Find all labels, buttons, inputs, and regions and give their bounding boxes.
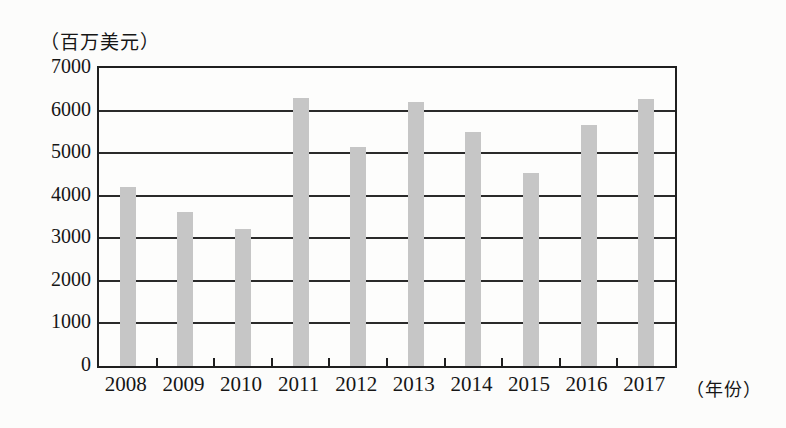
x-tick-label: 2009 — [162, 374, 204, 395]
bar-2014 — [465, 132, 481, 366]
y-tick-label: 5000 — [51, 141, 91, 161]
y-tick-label: 7000 — [51, 56, 91, 76]
bar-2012 — [350, 147, 366, 366]
bar-2013 — [408, 102, 424, 366]
x-tick-label: 2011 — [278, 374, 319, 395]
x-axis-tick-mark — [559, 358, 561, 366]
x-tick-label: 2016 — [566, 374, 608, 395]
bar-2017 — [638, 99, 654, 366]
gridline-6000 — [99, 110, 675, 112]
y-tick-label: 3000 — [51, 226, 91, 246]
x-axis-tick-mark — [386, 358, 388, 366]
y-tick-label: 6000 — [51, 99, 91, 119]
bar-2016 — [581, 125, 597, 366]
x-axis-tick-labels: 2008200920102011201220132014201520162017 — [97, 374, 673, 400]
y-tick-label: 2000 — [51, 269, 91, 289]
x-axis-unit-label: （年份） — [686, 375, 762, 401]
x-tick-label: 2015 — [508, 374, 550, 395]
bar-2008 — [120, 187, 136, 366]
x-axis-tick-mark — [616, 358, 618, 366]
x-tick-label: 2008 — [105, 374, 147, 395]
bar-chart-figure: （百万美元） 01000200030004000500060007000 200… — [0, 0, 786, 428]
bar-2011 — [293, 98, 309, 366]
y-tick-label: 1000 — [51, 311, 91, 331]
plot-area — [97, 66, 677, 368]
x-tick-label: 2010 — [220, 374, 262, 395]
y-tick-label: 0 — [81, 354, 91, 374]
bar-2009 — [177, 212, 193, 366]
x-tick-label: 2012 — [335, 374, 377, 395]
x-tick-label: 2017 — [623, 374, 665, 395]
y-axis-tick-labels: 01000200030004000500060007000 — [0, 66, 91, 364]
bar-2010 — [235, 229, 251, 367]
bar-2015 — [523, 173, 539, 366]
y-tick-label: 4000 — [51, 184, 91, 204]
x-tick-label: 2014 — [450, 374, 492, 395]
x-axis-tick-mark — [213, 358, 215, 366]
y-axis-unit-label: （百万美元） — [40, 27, 160, 54]
x-axis-tick-mark — [444, 358, 446, 366]
x-axis-tick-mark — [328, 358, 330, 366]
x-axis-tick-mark — [271, 358, 273, 366]
x-axis-tick-mark — [156, 358, 158, 366]
x-tick-label: 2013 — [393, 374, 435, 395]
x-axis-tick-mark — [501, 358, 503, 366]
